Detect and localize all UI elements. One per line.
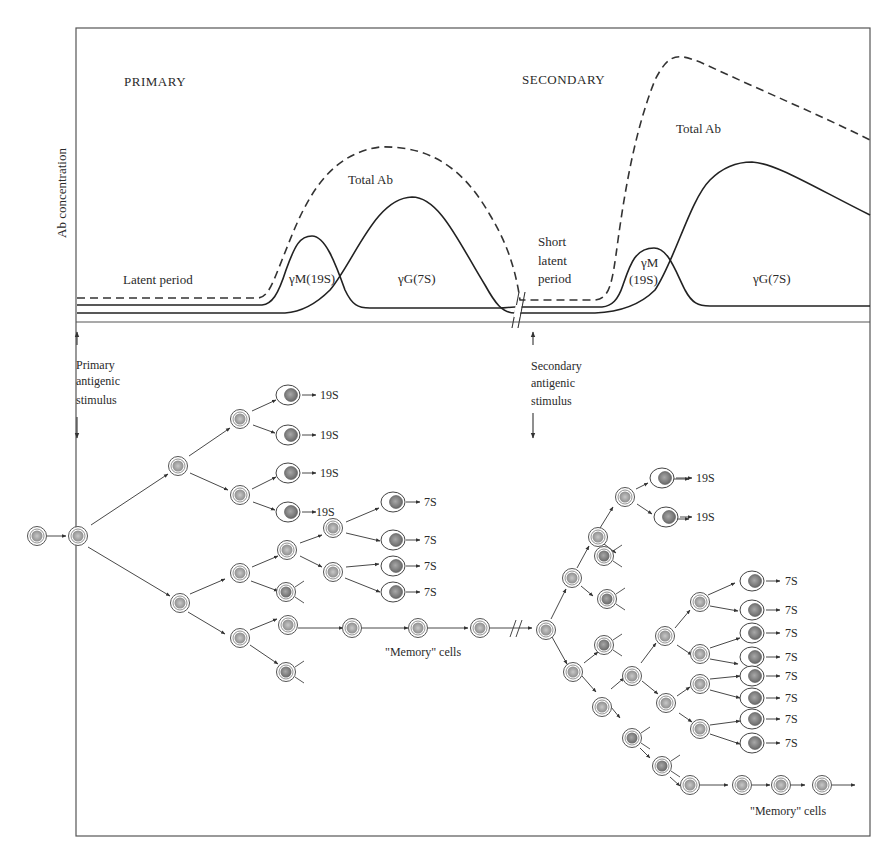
memory-cells-primary-label: "Memory" cells xyxy=(385,645,461,659)
svg-text:7S: 7S xyxy=(424,559,437,573)
svg-text:19S: 19S xyxy=(320,388,339,402)
short-latent-label-2: latent xyxy=(538,253,567,268)
svg-text:stimulus: stimulus xyxy=(531,394,572,408)
svg-text:7S: 7S xyxy=(785,712,798,726)
svg-text:7S: 7S xyxy=(785,736,798,750)
total-ab-secondary-label: Total Ab xyxy=(676,121,721,136)
primary-cells xyxy=(28,385,490,683)
svg-text:antigenic: antigenic xyxy=(76,374,120,388)
svg-text:19S: 19S xyxy=(320,466,339,480)
secondary-stimulus: Secondary antigenic stimulus xyxy=(531,332,582,438)
short-latent-label-3: period xyxy=(538,271,572,286)
svg-text:7S: 7S xyxy=(424,495,437,509)
svg-text:7S: 7S xyxy=(785,626,798,640)
secondary-title: SECONDARY xyxy=(522,72,605,87)
total-ab-curve xyxy=(77,57,870,300)
diagram-canvas: Ab concentration PRIMARY SECONDARY Laten… xyxy=(0,0,889,859)
gamma-m-primary-label: γM(19S) xyxy=(288,271,335,286)
secondary-labels: 19S 19S 7S 7S 7S 7S 7S 7S 7S 7S "Memory"… xyxy=(696,471,826,818)
svg-text:Primary: Primary xyxy=(76,358,115,372)
svg-text:19S: 19S xyxy=(696,471,715,485)
svg-text:7S: 7S xyxy=(424,533,437,547)
svg-text:stimulus: stimulus xyxy=(76,393,117,407)
memory-cells-secondary-label: "Memory" cells xyxy=(750,804,826,818)
svg-text:19S: 19S xyxy=(316,505,335,519)
gamma-g-curve xyxy=(77,162,870,313)
svg-text:7S: 7S xyxy=(785,574,798,588)
primary-stimulus: Primary antigenic stimulus xyxy=(76,332,120,438)
short-latent-label-1: Short xyxy=(538,234,567,249)
y-axis-label: Ab concentration xyxy=(54,148,69,238)
gamma-m-secondary-label-2: (19S) xyxy=(629,272,658,287)
svg-text:7S: 7S xyxy=(785,691,798,705)
gamma-m-secondary-label-1: γM xyxy=(640,255,659,270)
latent-period-label: Latent period xyxy=(123,272,193,287)
svg-text:19S: 19S xyxy=(320,428,339,442)
svg-text:19S: 19S xyxy=(696,510,715,524)
total-ab-primary-label: Total Ab xyxy=(348,172,393,187)
svg-text:7S: 7S xyxy=(785,669,798,683)
secondary-cell-tree xyxy=(551,478,855,786)
svg-text:7S: 7S xyxy=(424,585,437,599)
gamma-g-primary-label: γG(7S) xyxy=(397,271,436,286)
svg-text:7S: 7S xyxy=(785,650,798,664)
svg-text:antigenic: antigenic xyxy=(531,376,575,390)
svg-text:7S: 7S xyxy=(785,603,798,617)
primary-title: PRIMARY xyxy=(124,74,186,89)
gamma-g-secondary-label: γG(7S) xyxy=(752,271,791,286)
svg-text:Secondary: Secondary xyxy=(531,359,582,373)
